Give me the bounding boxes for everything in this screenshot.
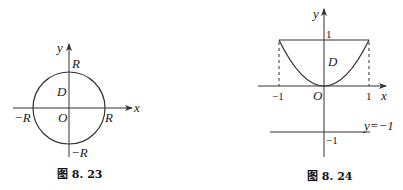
- figures-canvas: y x R D O −R R −R 图 8. 23 y x 1 D O −1 1…: [0, 0, 403, 190]
- right-intercept-label: R: [104, 110, 113, 125]
- y-axis-label: y: [311, 6, 319, 21]
- caption: 图 8. 24: [307, 170, 353, 183]
- x-tick-1: 1: [366, 90, 372, 102]
- x-tick-neg1: −1: [272, 90, 284, 102]
- bottom-intercept-label: −R: [71, 145, 88, 160]
- origin-label: O: [313, 88, 323, 103]
- x-axis-label: x: [133, 100, 140, 115]
- region-label: D: [327, 54, 338, 69]
- y-axis-label: y: [55, 40, 63, 55]
- figure-8-24: y x 1 D O −1 1 y=−1 −1 图 8. 24: [258, 6, 394, 183]
- left-intercept-label: −R: [14, 110, 31, 125]
- figure-8-23: y x R D O −R R −R 图 8. 23: [13, 40, 140, 181]
- region-label: D: [56, 84, 67, 99]
- y-tick-1: 1: [326, 28, 332, 40]
- y-tick-neg1: −1: [326, 134, 338, 146]
- top-intercept-label: R: [71, 56, 80, 71]
- x-axis-label: x: [380, 88, 387, 103]
- origin-label: O: [58, 110, 68, 125]
- caption: 图 8. 23: [57, 168, 102, 181]
- line-label: y=−1: [362, 118, 394, 133]
